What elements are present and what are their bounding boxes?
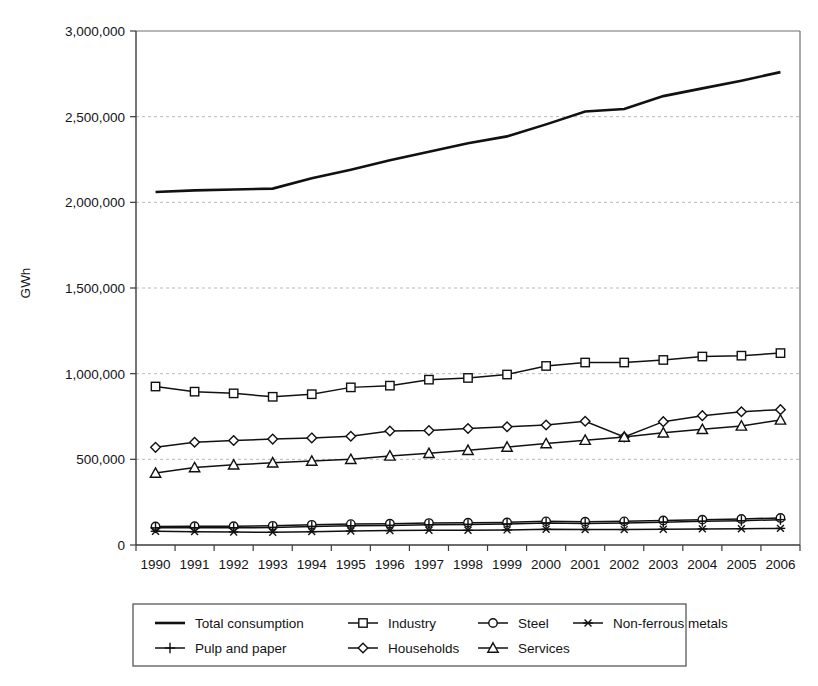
y-tick-label: 0 xyxy=(117,538,125,553)
x-tick-label: 1996 xyxy=(375,557,405,572)
y-tick-label: 2,000,000 xyxy=(65,195,125,210)
y-tick-label: 500,000 xyxy=(76,452,125,467)
x-tick-label: 1995 xyxy=(336,557,366,572)
y-axis-label-text: GWh xyxy=(18,268,33,299)
legend-label: Households xyxy=(388,641,460,656)
y-tick-label: 2,500,000 xyxy=(65,110,125,125)
x-tick-label: 1990 xyxy=(141,557,171,572)
data-point-marker-square xyxy=(698,352,706,360)
y-tick-label: 1,000,000 xyxy=(65,367,125,382)
data-point-marker-square xyxy=(190,387,198,395)
x-tick-label: 2004 xyxy=(687,557,718,572)
legend-label: Industry xyxy=(388,616,436,631)
data-point-marker-square xyxy=(542,362,550,370)
y-axis-title: GWh xyxy=(18,268,33,299)
data-point-marker-square xyxy=(386,381,394,389)
data-point-marker-square xyxy=(425,375,433,383)
data-point-marker-square xyxy=(347,383,355,391)
x-tick-label: 1992 xyxy=(219,557,249,572)
data-point-marker-square xyxy=(620,358,628,366)
x-tick-label: 1994 xyxy=(297,557,328,572)
legend-label: Non-ferrous metals xyxy=(613,616,728,631)
data-point-marker-square xyxy=(581,358,589,366)
data-point-marker-square xyxy=(464,374,472,382)
data-point-marker-square xyxy=(308,390,316,398)
x-tick-label: 2003 xyxy=(648,557,678,572)
x-tick-label: 2000 xyxy=(531,557,561,572)
data-point-marker-square xyxy=(776,349,784,357)
x-tick-label: 2001 xyxy=(570,557,600,572)
chart-legend: Total consumptionIndustrySteelNon-ferrou… xyxy=(133,604,728,666)
legend-label: Services xyxy=(518,641,570,656)
y-tick-label: 3,000,000 xyxy=(65,24,125,39)
data-point-marker-square xyxy=(359,619,367,627)
data-point-marker-square xyxy=(659,356,667,364)
x-tick-label: 1993 xyxy=(258,557,288,572)
data-point-marker-square xyxy=(269,393,277,401)
data-point-marker-square xyxy=(503,370,511,378)
legend-label: Pulp and paper xyxy=(195,641,287,656)
chart-container: 3,000,0002,500,0002,000,0001,500,0001,00… xyxy=(0,0,818,686)
y-tick-label: 1,500,000 xyxy=(65,281,125,296)
x-tick-label: 1998 xyxy=(453,557,483,572)
data-point-marker-square xyxy=(151,382,159,390)
line-chart: 3,000,0002,500,0002,000,0001,500,0001,00… xyxy=(0,0,818,686)
x-tick-label: 2002 xyxy=(609,557,639,572)
data-point-marker-square xyxy=(229,389,237,397)
legend-label: Steel xyxy=(518,616,549,631)
legend-box xyxy=(133,604,686,666)
chart-background xyxy=(0,0,818,686)
data-point-marker-square xyxy=(737,351,745,359)
data-point-marker-circle xyxy=(489,619,497,627)
x-tick-label: 2006 xyxy=(765,557,795,572)
x-tick-label: 1991 xyxy=(180,557,210,572)
x-tick-label: 1997 xyxy=(414,557,444,572)
legend-label: Total consumption xyxy=(195,616,304,631)
x-tick-label: 2005 xyxy=(726,557,756,572)
x-tick-label: 1999 xyxy=(492,557,522,572)
